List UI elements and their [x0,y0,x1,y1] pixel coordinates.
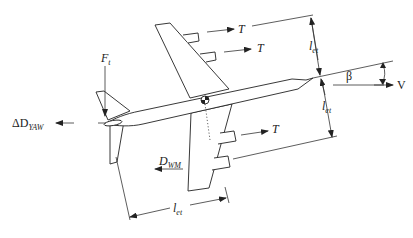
upper-extension-line [252,15,313,26]
windmill-drag-label: DWM [158,154,182,170]
engine-3 [218,131,236,144]
engine-4 [212,156,230,170]
lower-wing [188,104,232,191]
velocity-label: V [397,78,406,92]
thrust-label-1: T [238,22,246,36]
thrust-label-3: T [272,122,280,136]
lower-arm-label: let [322,99,332,115]
tail-force-label: Ft [100,51,111,67]
thrust-label-2: T [257,41,265,55]
tail-arm-dimension-right [190,198,226,205]
sideslip-arc-arrowhead-bottom [379,79,386,85]
sideslip-angle-label: β [346,69,352,83]
diagram-canvas: T T T let let V β Ft ΔDYAW DWM let [0,0,413,238]
tail-arm-dimension-left [130,208,170,217]
body-axis-line [313,61,393,78]
thrust-arrow-1 [207,29,234,32]
lower-extension-line [233,136,337,159]
tail-arm-extension-left [116,157,130,220]
thrust-arrow-2 [224,49,251,52]
tail-arm-label: let [173,201,183,217]
dimension-lower-arm-start [321,79,325,95]
thrust-arrow-3 [241,131,268,135]
center-of-gravity-icon [201,96,209,104]
tail-arm-extension-right [225,187,229,203]
horizontal-tail [110,121,124,164]
upper-arm-label: let [309,39,319,55]
yaw-drag-label: ΔDYAW [12,116,45,132]
